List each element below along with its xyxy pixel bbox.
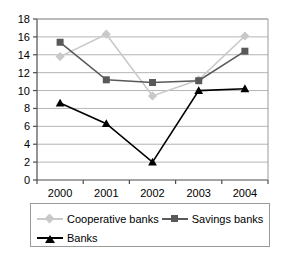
data-point-square [195, 77, 202, 84]
y-tick-label: 10 [18, 85, 30, 97]
legend-row-1: Cooperative banks Savings banks [37, 209, 269, 228]
square-icon [171, 215, 178, 222]
y-tick-label: 6 [24, 120, 30, 132]
x-tick-label: 2002 [140, 187, 164, 199]
y-tick-label: 4 [24, 138, 30, 150]
x-tick-label: 2003 [186, 187, 210, 199]
y-tick-label: 8 [24, 102, 30, 114]
y-tick-label: 14 [18, 49, 30, 61]
legend-label-banks: Banks [67, 232, 98, 244]
y-tick-label: 2 [24, 156, 30, 168]
legend-item-savings-banks[interactable]: Savings banks [162, 209, 269, 228]
data-point-square [149, 79, 156, 86]
diamond-icon [46, 215, 53, 222]
x-tick-label: 2001 [94, 187, 118, 199]
series-layer [56, 30, 250, 166]
data-point-square [57, 39, 64, 46]
data-point-triangle [56, 99, 65, 107]
legend-key-savings-banks [162, 213, 188, 225]
x-tick-label: 2000 [48, 187, 72, 199]
legend-label-savings-banks: Savings banks [192, 213, 264, 225]
legend-key-banks [37, 232, 63, 244]
y-tick-label: 12 [18, 67, 30, 79]
triangle-icon [45, 235, 55, 243]
data-point-square [241, 48, 248, 55]
y-axis-ticks: 024681012141618 [18, 13, 37, 186]
chart-legend: Cooperative banks Savings banks [30, 203, 270, 247]
legend-row-2: Banks [37, 228, 269, 247]
chart-svg: 024681012141618 20002001200220032004 [0, 0, 287, 200]
legend-item-banks[interactable]: Banks [37, 228, 165, 247]
plot-area: 024681012141618 20002001200220032004 [0, 0, 287, 200]
y-tick-label: 18 [18, 13, 30, 25]
line-chart: 024681012141618 20002001200220032004 Coo… [0, 0, 287, 254]
x-tick-label: 2004 [233, 187, 257, 199]
data-point-diamond [56, 52, 65, 61]
gridlines [37, 19, 268, 162]
data-point-square [103, 76, 110, 83]
legend-item-cooperative-banks[interactable]: Cooperative banks [37, 209, 162, 228]
y-tick-label: 0 [24, 174, 30, 186]
x-axis-ticks: 20002001200220032004 [37, 180, 268, 199]
y-tick-label: 16 [18, 31, 30, 43]
legend-label-cooperative-banks: Cooperative banks [67, 213, 159, 225]
legend-key-cooperative-banks [37, 213, 63, 225]
